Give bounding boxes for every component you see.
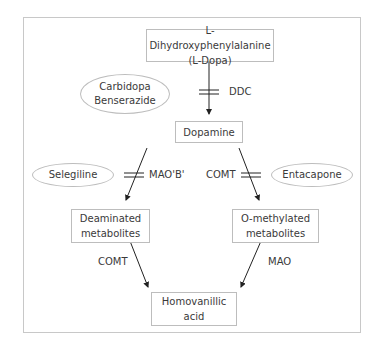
arrow-deaminated-hva [130,241,148,287]
enzyme-comt-top: COMT [206,169,236,180]
inhibitor-carbidopa-benserazide: Carbidopa Benserazide [80,74,170,114]
node-dopamine: Dopamine [175,121,243,143]
node-omethylated: O-methylated metabolites [232,209,319,243]
node-line2: acid [184,309,205,324]
node-ldopa-line2: (L-Dopa) [188,53,231,68]
node-homovanillic-acid: Homovanillic acid [151,292,237,326]
node-line1: Homovanillic [162,294,227,309]
enzyme-mao-bottom: MAO [268,256,291,267]
arrow-dopamine-deaminated [126,148,147,200]
inhibitor-label: Entacapone [282,168,341,182]
node-ldopa-line1: L-Dihydroxyphenylalanine [147,23,273,53]
inhibitor-line2: Benserazide [94,94,155,108]
node-ldopa: L-Dihydroxyphenylalanine (L-Dopa) [146,29,274,62]
arrow-omethylated-hva [241,241,261,287]
node-line1: Deaminated [80,211,141,226]
enzyme-maob: MAO'B' [149,169,185,180]
inhibitor-entacapone: Entacapone [271,163,353,187]
node-dopamine-label: Dopamine [183,125,234,140]
node-line2: metabolites [81,226,140,241]
node-line1: O-methylated [241,211,310,226]
inhibitor-line1: Carbidopa [99,80,150,94]
enzyme-comt-bottom: COMT [98,256,128,267]
node-deaminated: Deaminated metabolites [71,209,150,243]
enzyme-ddc: DDC [229,86,251,97]
node-line2: metabolites [246,226,305,241]
inhibitor-selegiline: Selegiline [32,163,114,187]
arrow-dopamine-omethylated [239,148,259,200]
inhibitor-label: Selegiline [49,168,98,182]
